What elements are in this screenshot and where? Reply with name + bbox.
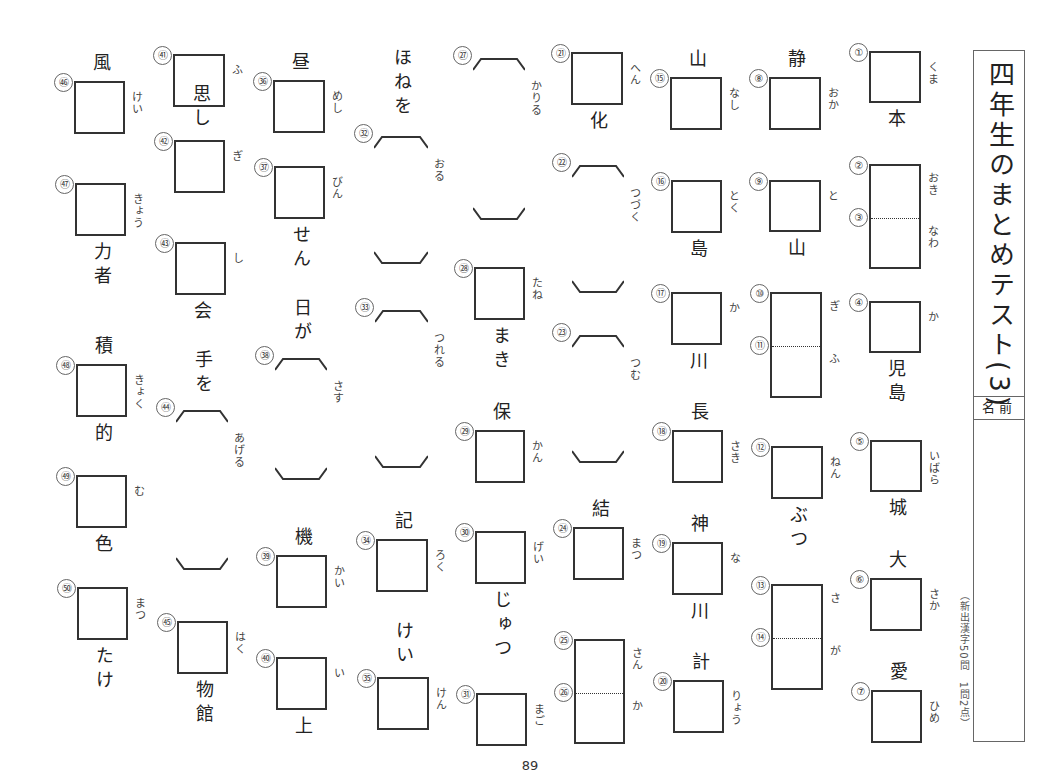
okurigana-bracket[interactable]: [473, 58, 525, 220]
question-number: ㉗: [453, 46, 472, 65]
furigana: い: [332, 667, 344, 679]
bracket-icon: [374, 136, 428, 264]
answer-box[interactable]: [175, 242, 226, 295]
furigana: かい: [332, 565, 344, 589]
okurigana-bracket[interactable]: [275, 358, 327, 480]
answer-box[interactable]: [573, 527, 624, 580]
question-number: ⑯: [651, 172, 670, 191]
furigana: と: [826, 190, 838, 202]
clue-text: 結: [588, 499, 610, 523]
answer-box[interactable]: [177, 621, 228, 674]
answer-box[interactable]: [77, 587, 128, 640]
clue-text: 風: [89, 53, 111, 77]
furigana: ねん: [828, 456, 840, 480]
question-number: ⑥: [850, 570, 869, 589]
question-number: ⑬: [751, 576, 770, 595]
answer-box[interactable]: [769, 77, 821, 130]
answer-box[interactable]: [571, 52, 623, 105]
bracket-icon: [473, 58, 525, 220]
furigana: か: [926, 311, 938, 323]
answer-box[interactable]: [377, 677, 429, 730]
answer-box[interactable]: [770, 292, 822, 398]
question-number: ⑨: [749, 172, 768, 191]
clue-text: 城: [885, 498, 907, 522]
answer-box[interactable]: [276, 555, 327, 608]
answer-box[interactable]: [274, 166, 325, 219]
answer-box[interactable]: [273, 80, 325, 133]
answer-box[interactable]: [475, 430, 525, 483]
okurigana-bracket[interactable]: [375, 310, 428, 468]
furigana: さす: [331, 380, 343, 404]
furigana: ぎ: [230, 150, 242, 162]
answer-box[interactable]: [869, 164, 921, 269]
question-number: ㊵: [256, 649, 275, 668]
question-number: ㉘: [454, 259, 473, 278]
question-number: ⑱: [652, 422, 671, 441]
divider-line: [772, 346, 820, 347]
answer-box[interactable]: [870, 440, 922, 492]
clue-text: 山: [685, 49, 707, 73]
name-label: 名前: [974, 396, 1024, 420]
question-number: ㊱: [253, 72, 272, 91]
answer-box[interactable]: [870, 578, 922, 631]
furigana: なし: [727, 87, 739, 111]
clue-text: 静: [784, 49, 806, 73]
furigana: いばら: [927, 450, 939, 486]
clue-text: 手を: [191, 350, 213, 398]
answer-box[interactable]: [376, 539, 428, 592]
question-number: ㉑: [551, 44, 570, 63]
answer-box[interactable]: [771, 446, 823, 499]
answer-box[interactable]: [671, 180, 722, 233]
answer-box[interactable]: [276, 657, 327, 710]
furigana: さき: [728, 440, 740, 464]
answer-box[interactable]: [672, 542, 723, 595]
okurigana-bracket[interactable]: [572, 335, 624, 463]
bracket-icon: [572, 165, 624, 293]
question-number: ③: [849, 208, 868, 227]
furigana: りょう: [729, 690, 741, 726]
answer-box[interactable]: [476, 693, 527, 746]
furigana: まご: [532, 703, 544, 727]
answer-box[interactable]: [76, 475, 127, 528]
furigana: し: [231, 252, 243, 264]
answer-box[interactable]: [75, 183, 126, 236]
answer-box[interactable]: [869, 51, 921, 103]
clue-text: 愛: [886, 662, 908, 686]
question-number: ⑧: [749, 69, 768, 88]
question-number: ①: [849, 43, 868, 62]
answer-box[interactable]: [671, 292, 722, 345]
okurigana-bracket[interactable]: [374, 136, 428, 264]
answer-box[interactable]: [474, 267, 525, 320]
answer-box[interactable]: [769, 180, 821, 232]
question-number: ㉕: [554, 631, 573, 650]
answer-box[interactable]: [74, 81, 125, 134]
answer-box[interactable]: [76, 364, 127, 417]
clue-text: 本: [884, 109, 906, 133]
okurigana-bracket[interactable]: [176, 410, 228, 570]
divider-line: [576, 693, 623, 694]
clue-text: 積: [91, 336, 113, 360]
clue-text: 昼: [288, 52, 310, 76]
question-number: ㊻: [54, 73, 73, 92]
answer-box[interactable]: [574, 639, 625, 744]
answer-box[interactable]: [673, 680, 724, 733]
answer-box[interactable]: [871, 690, 922, 743]
answer-box[interactable]: [475, 531, 526, 584]
clue-text: 長: [687, 402, 709, 426]
question-number: ⑭: [751, 628, 770, 647]
answer-box[interactable]: [869, 301, 921, 353]
answer-box[interactable]: [771, 584, 823, 690]
clue-text: たけ: [92, 646, 114, 694]
question-number: ㉛: [456, 685, 475, 704]
clue-text: 島: [686, 239, 708, 263]
clue-text: 計: [688, 652, 710, 676]
clue-text: 物館: [192, 680, 214, 728]
clue-text: 化: [586, 111, 608, 135]
clue-text: 会: [190, 301, 212, 325]
answer-box[interactable]: [670, 77, 722, 130]
clue-text: じゅつ: [490, 590, 512, 662]
okurigana-bracket[interactable]: [572, 165, 624, 293]
furigana: けん: [434, 687, 446, 711]
answer-box[interactable]: [672, 430, 723, 483]
answer-box[interactable]: [174, 140, 225, 193]
